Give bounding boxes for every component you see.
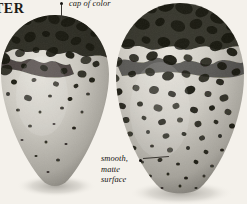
annotation-line-3: surface	[101, 175, 128, 186]
leader-dot-cap-of-color	[60, 2, 63, 5]
annotation-cap-of-color: cap of color	[69, 0, 111, 10]
leader-line-cap-of-color	[61, 5, 62, 20]
annotation-line-1: smooth,	[101, 154, 128, 165]
egg-photo-plate: TER cap of color smooth, matte surface	[0, 0, 247, 204]
leader-dot-smooth-matte-surface	[139, 159, 142, 162]
annotation-line-2: matte	[101, 165, 128, 176]
page-title: TER	[0, 2, 24, 16]
annotation-smooth-matte-surface: smooth, matte surface	[101, 154, 128, 186]
